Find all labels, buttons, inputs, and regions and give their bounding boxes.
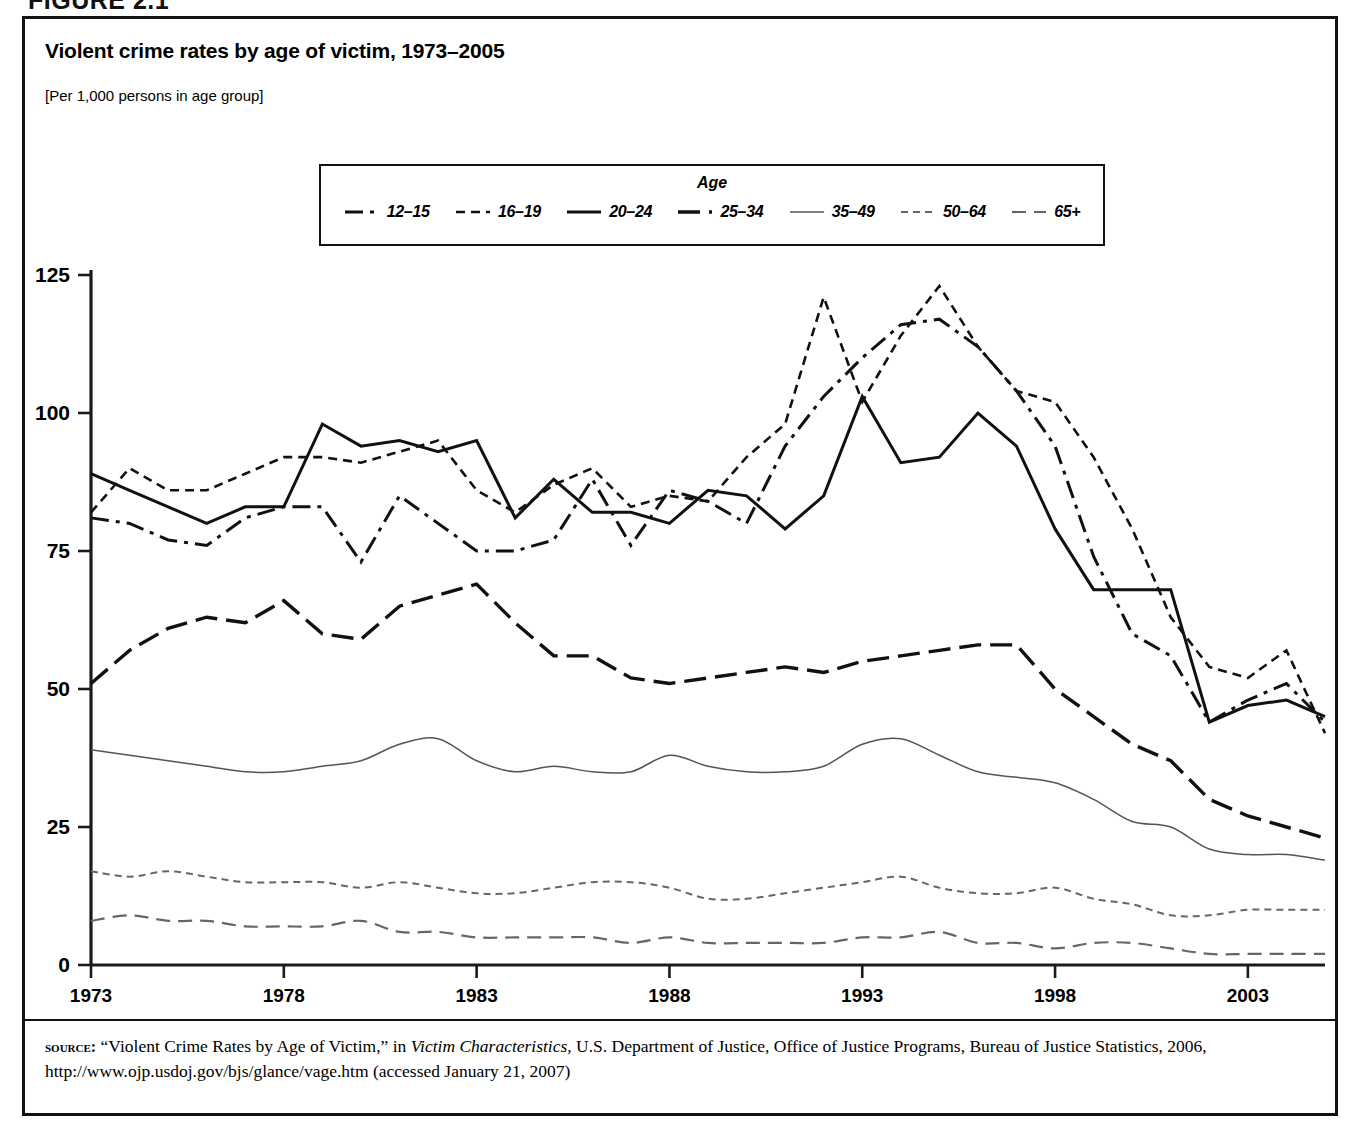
series-line-35-49 bbox=[91, 738, 1325, 860]
x-tick-label: 1983 bbox=[455, 985, 497, 1006]
legend-item-label: 35–49 bbox=[832, 203, 875, 221]
x-tick-label: 1978 bbox=[263, 985, 305, 1006]
legend-item-50-64: 50–64 bbox=[900, 203, 986, 221]
legend-item-35-49: 35–49 bbox=[789, 203, 875, 221]
series-line-25-34 bbox=[91, 584, 1325, 838]
x-tick-label: 2003 bbox=[1227, 985, 1269, 1006]
legend-item-20-24: 20–24 bbox=[566, 203, 652, 221]
x-tick-label: 1988 bbox=[648, 985, 690, 1006]
legend-line-swatch-dashed-medium-icon bbox=[1011, 205, 1047, 219]
legend-item-label: 12–15 bbox=[387, 203, 430, 221]
legend-line-swatch-dash-dot-icon bbox=[344, 205, 380, 219]
series-line-12-15 bbox=[91, 319, 1325, 722]
legend-line-swatch-dashed-long-icon bbox=[677, 205, 713, 219]
legend-item-25-34: 25–34 bbox=[677, 203, 763, 221]
source-note: source: “Violent Crime Rates by Age of V… bbox=[45, 1034, 1315, 1084]
legend-items: 12–1516–1920–2425–3435–4950–6465+ bbox=[321, 203, 1103, 221]
series-line-16-19 bbox=[91, 286, 1325, 733]
legend-item-65+: 65+ bbox=[1011, 203, 1080, 221]
legend-item-label: 20–24 bbox=[609, 203, 652, 221]
legend-line-swatch-solid-thin-icon bbox=[789, 205, 825, 219]
chart-units-note: [Per 1,000 persons in age group] bbox=[45, 87, 263, 104]
x-tick-label: 1973 bbox=[70, 985, 112, 1006]
y-tick-label: 75 bbox=[47, 539, 71, 562]
legend-item-label: 65+ bbox=[1054, 203, 1080, 221]
legend-item-label: 16–19 bbox=[498, 203, 541, 221]
legend-item-12-15: 12–15 bbox=[344, 203, 430, 221]
legend-title: Age bbox=[321, 174, 1103, 192]
page-title: Violent crime rates by age of victim, 19… bbox=[45, 39, 504, 63]
series-line-50-64 bbox=[91, 871, 1325, 916]
legend-line-swatch-dotted-short-icon bbox=[455, 205, 491, 219]
legend-item-label: 50–64 bbox=[943, 203, 986, 221]
series-line-65+ bbox=[91, 915, 1325, 954]
x-tick-label: 1998 bbox=[1034, 985, 1076, 1006]
legend-line-swatch-solid-icon bbox=[566, 205, 602, 219]
source-divider bbox=[25, 1019, 1335, 1021]
y-tick-label: 0 bbox=[58, 953, 70, 976]
y-tick-label: 125 bbox=[35, 263, 70, 286]
chart-series bbox=[91, 286, 1325, 954]
chart-axes: 0255075100125197319781983198819931998200… bbox=[35, 263, 1325, 1006]
legend-item-16-19: 16–19 bbox=[455, 203, 541, 221]
legend-item-label: 25–34 bbox=[720, 203, 763, 221]
chart-legend: Age 12–1516–1920–2425–3435–4950–6465+ bbox=[319, 164, 1105, 246]
source-text-before: “Violent Crime Rates by Age of Victim,” … bbox=[96, 1036, 410, 1056]
series-line-20-24 bbox=[91, 396, 1325, 722]
y-tick-label: 25 bbox=[47, 815, 71, 838]
y-tick-label: 50 bbox=[47, 677, 70, 700]
x-tick-label: 1993 bbox=[841, 985, 883, 1006]
source-italic-title: Victim Characteristics, bbox=[411, 1036, 572, 1056]
y-tick-label: 100 bbox=[35, 401, 70, 424]
source-label: source: bbox=[45, 1038, 96, 1055]
legend-line-swatch-dotted-fine-icon bbox=[900, 205, 936, 219]
figure-number: FIGURE 2.1 bbox=[28, 0, 169, 15]
figure-box: Violent crime rates by age of victim, 19… bbox=[22, 16, 1338, 1116]
